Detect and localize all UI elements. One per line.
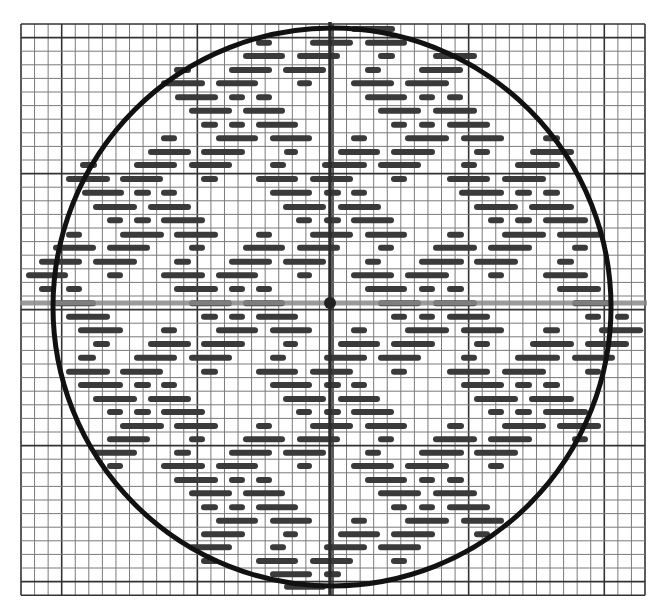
circle-dash-diagram [0,0,659,611]
center-dot [324,297,336,309]
